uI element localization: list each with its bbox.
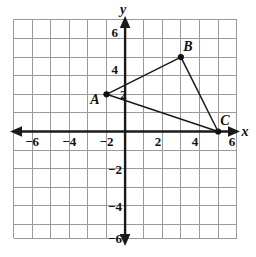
x-tick--2: −2	[100, 134, 114, 149]
x-tick-4: 4	[192, 134, 199, 149]
x-tick--6: −6	[25, 134, 39, 149]
y-tick-4: 4	[112, 62, 119, 77]
point-label-C: C	[220, 113, 230, 128]
x-axis-arrow-left	[10, 126, 22, 137]
y-tick--2: −2	[108, 162, 122, 177]
x-tick--4: −4	[62, 134, 76, 149]
x-tick-2: 2	[155, 134, 162, 149]
y-tick--6: −6	[108, 231, 122, 246]
x-axis-label: x	[241, 124, 249, 139]
point-label-B: B	[182, 39, 192, 54]
x-tick-labels: −6 −4 −2 2 4 6	[25, 134, 236, 149]
y-axis-arrow-up	[120, 16, 131, 28]
coordinate-plane: x y −6 −4 −2 2 4 6 6 4 2 −2 −4 −6	[0, 0, 256, 257]
y-tick-6: 6	[112, 25, 119, 40]
coordinate-graph-figure: x y −6 −4 −2 2 4 6 6 4 2 −2 −4 −6	[0, 0, 256, 257]
y-tick--4: −4	[108, 199, 122, 214]
y-axis-label: y	[118, 2, 127, 17]
point-C	[215, 128, 221, 134]
point-A	[103, 91, 109, 97]
x-tick-6: 6	[229, 134, 236, 149]
point-label-A: A	[89, 92, 99, 107]
point-B	[178, 54, 184, 60]
